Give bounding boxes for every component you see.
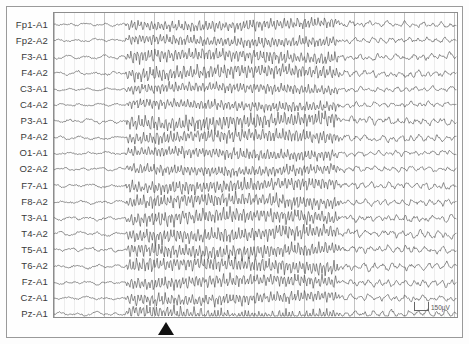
channel-label-p4-a2: P4-A2 bbox=[21, 131, 48, 142]
channel-label-column: Fp1-A1Fp2-A2F3-A1F4-A2C3-A1C4-A2P3-A1P4-… bbox=[0, 0, 53, 344]
calibration-bar: 150µV bbox=[414, 302, 450, 311]
channel-label-f7-a1: F7-A1 bbox=[21, 179, 48, 190]
eeg-trace-panel[interactable] bbox=[53, 12, 458, 318]
channel-label-p3-a1: P3-A1 bbox=[21, 115, 48, 126]
channel-label-o1-a1: O1-A1 bbox=[20, 147, 48, 158]
channel-label-o2-a2: O2-A2 bbox=[20, 163, 48, 174]
channel-label-pz-a1: Pz-A1 bbox=[21, 308, 48, 319]
channel-label-cz-a1: Cz-A1 bbox=[21, 292, 48, 303]
channel-label-f3-a1: F3-A1 bbox=[21, 50, 48, 61]
channel-label-fp1-a1: Fp1-A1 bbox=[16, 18, 48, 29]
channel-label-c4-a2: C4-A2 bbox=[20, 99, 48, 110]
eeg-screenshot: Fp1-A1Fp2-A2F3-A1F4-A2C3-A1C4-A2P3-A1P4-… bbox=[0, 0, 469, 344]
calibration-bracket bbox=[414, 302, 429, 311]
channel-label-t6-a2: T6-A2 bbox=[21, 260, 48, 271]
channel-label-t4-a2: T4-A2 bbox=[21, 227, 48, 238]
grid-lines bbox=[55, 13, 455, 317]
eeg-waveform-canvas bbox=[54, 13, 457, 317]
channel-label-f8-a2: F8-A2 bbox=[21, 195, 48, 206]
channel-label-fp2-a2: Fp2-A2 bbox=[16, 34, 48, 45]
channel-label-f4-a2: F4-A2 bbox=[21, 66, 48, 77]
calibration-label: 150µV bbox=[431, 305, 450, 312]
channel-label-c3-a1: C3-A1 bbox=[20, 82, 48, 93]
channel-label-fz-a1: Fz-A1 bbox=[22, 276, 48, 287]
seizure-onset-marker bbox=[158, 322, 174, 335]
channel-label-t5-a1: T5-A1 bbox=[21, 243, 48, 254]
channel-label-t3-a1: T3-A1 bbox=[21, 211, 48, 222]
